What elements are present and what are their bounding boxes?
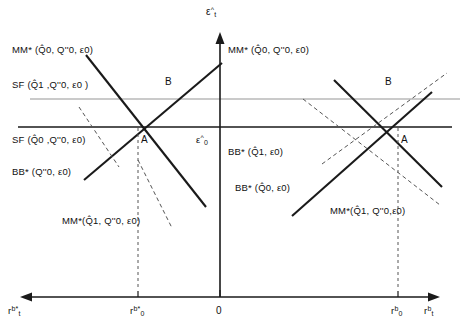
- right-point-a-label: A: [401, 134, 408, 145]
- right-mm-star-curve: [292, 92, 432, 216]
- origin-label: 0: [216, 305, 222, 316]
- left-dashed-continuation: [138, 160, 172, 228]
- left-point-b-label: B: [165, 76, 172, 87]
- right-axis-sub: t: [431, 310, 433, 317]
- horizontal-axis-left-arrow: [20, 293, 32, 302]
- left-axis-sub: t: [18, 310, 20, 317]
- epsilon-zero-sub: 0: [204, 139, 208, 146]
- left-bb-star-curve: [84, 63, 222, 180]
- right-mm-star-upper-label: MM* (Q̂0, Q''0, ε0): [228, 44, 309, 55]
- left-mm-star-lower-label: MM*(Q̂1, Q''0, ε0): [62, 215, 140, 226]
- right-axis-name-label: rbt: [424, 305, 434, 317]
- right-point-b-label: B: [385, 76, 392, 87]
- right-bb-star-curve: [334, 80, 442, 187]
- left-point-a-label: A: [141, 134, 148, 145]
- horizontal-axis-right-arrow: [428, 293, 440, 302]
- left-axis-name-label: rb*t: [8, 305, 21, 317]
- left-tick-label: rb*0: [130, 305, 145, 317]
- right-tick-label: rb0: [391, 305, 403, 317]
- left-bb-star-label: BB* (Q''0, ε0): [12, 166, 71, 177]
- right-mm-star-lower-label: MM*(Q̂1, Q''0,ε0): [330, 205, 405, 216]
- right-tick-sub: 0: [398, 310, 402, 317]
- vertical-axis-sub: t: [214, 11, 216, 18]
- right-bb-star-lower-label: BB* (Q̂0, ε0): [235, 182, 290, 193]
- epsilon-zero-label: ε^0: [196, 134, 208, 146]
- left-sf-lower-label: SF (Q̂0 ,Q''0, ε0): [12, 134, 86, 145]
- left-mm-star-upper-label: MM* (Q̂0, Q''0, ε0): [12, 44, 93, 55]
- left-tick-sub: 0: [140, 310, 144, 317]
- right-bb-star-upper-label: BB* (Q̂1, ε0): [228, 146, 283, 157]
- left-sf-upper-label: SF (Q̂1 ,Q''0, ε0 ): [12, 79, 88, 90]
- vertical-axis-label: ε^t: [206, 6, 216, 18]
- vertical-axis-arrow: [216, 32, 225, 44]
- left-mm-star-curve: [86, 55, 206, 207]
- economics-diagram: MM* (Q̂0, Q''0, ε0) SF (Q̂1 ,Q''0, ε0 ) …: [0, 0, 460, 336]
